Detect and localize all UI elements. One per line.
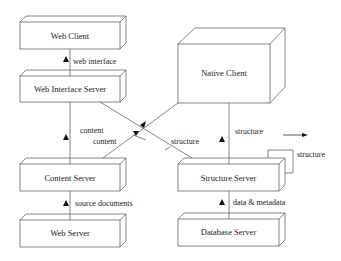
web-server-title: Web Server <box>20 228 120 238</box>
native-client-title: Native Client <box>178 68 270 78</box>
content-diagonal-connector <box>103 103 178 158</box>
arrow-up-structure-icon <box>219 136 225 142</box>
arrow-up-source-documents-icon <box>63 200 69 206</box>
structure-server-title: Structure Server <box>178 173 279 183</box>
web-client-title: Web Client <box>20 31 120 41</box>
native-client-box <box>178 28 285 103</box>
web-interface-label: web interface <box>73 57 116 67</box>
structure-self-loop <box>268 150 293 173</box>
source-documents-label: source documents <box>75 199 133 209</box>
structure-label-self-loop: structure <box>297 150 325 160</box>
content-label-diagonal: content <box>93 137 117 147</box>
data-metadata-label: data & metadata <box>233 198 285 208</box>
arrow-up-content-icon <box>63 134 69 140</box>
structure-label-leader <box>165 147 170 150</box>
database-server-title: Database Server <box>178 227 279 237</box>
arrow-up-web-interface-icon <box>63 56 69 62</box>
content-server-title: Content Server <box>20 173 120 183</box>
content-label-left: content <box>80 126 104 136</box>
structure-label-right: structure <box>235 127 263 137</box>
arrow-up-data-metadata-icon <box>219 199 225 205</box>
crossing-tick <box>133 135 146 140</box>
structure-label-diagonal: structure <box>171 137 199 147</box>
web-interface-server-title: Web Interface Server <box>20 84 120 94</box>
